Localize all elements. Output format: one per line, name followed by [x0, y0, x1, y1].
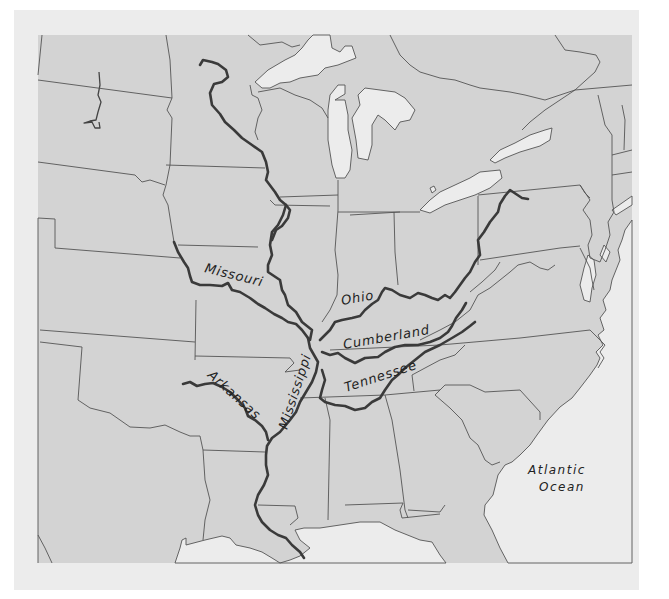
label-ocean: Ocean: [539, 480, 585, 494]
label-atlantic: Atlantic: [527, 463, 586, 477]
map: Missouri Ohio Cumberland Tennessee Arkan…: [0, 0, 669, 599]
